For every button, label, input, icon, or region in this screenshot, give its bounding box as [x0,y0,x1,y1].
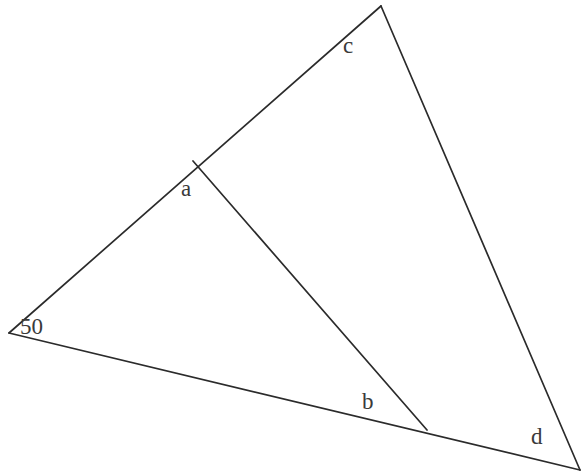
edge-inner-segment [193,161,427,430]
label-b: b [362,389,374,414]
edge-left-to-right [9,333,580,470]
label-angle-50: 50 [20,314,43,339]
label-d: d [531,424,543,449]
label-a: a [181,176,191,201]
edge-left-to-top [9,6,381,333]
edge-top-to-right [381,6,580,470]
triangle-diagram: c a 50 b d [0,0,583,474]
label-c: c [343,33,353,58]
